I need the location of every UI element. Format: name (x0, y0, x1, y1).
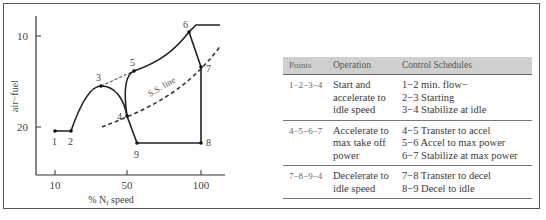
point-label-5: 5 (130, 57, 135, 68)
row-schedules: 7−8 Transter to decel 8−9 Decel to idle (396, 170, 532, 195)
point-label-2: 2 (68, 136, 73, 147)
row-points: 7−8−9−4 (283, 170, 331, 195)
y-tick-20: 20 (17, 121, 29, 133)
row-schedules: 1−2 min. flow− 2−3 Starting 3−4 Stabiliz… (396, 79, 532, 117)
table-row: 1−2−3−4 Start and accelerate to idle spe… (283, 75, 532, 121)
control-schedule-table: Points Operation Control Schedules 1−2−3… (283, 57, 532, 199)
row-points: 4−5−6−7 (283, 125, 331, 163)
table-row: 7−8−9−4 Decelerate to idle speed 7−8 Tra… (283, 166, 532, 199)
row-operation: Start and accelerate to idle speed (331, 79, 396, 117)
x-tick-50: 50 (122, 179, 134, 191)
accel-path (125, 32, 189, 116)
ss-line-label: S.S. line (146, 75, 177, 99)
transfer-dashed-line (101, 71, 134, 86)
row-schedules: 4−5 Transter to accel 5−6 Accel to max p… (396, 125, 532, 163)
point-label-3: 3 (96, 72, 101, 83)
row-points: 1−2−3−4 (283, 79, 331, 117)
point-label-4: 4 (117, 111, 122, 122)
row-operation: Accelerate to max take off power (331, 125, 396, 163)
y-tick-10: 10 (17, 30, 29, 42)
x-tick-100: 100 (193, 179, 210, 191)
table-row: 4−5−6−7 Accelerate to max take off power… (283, 121, 532, 167)
header-operation: Operation (331, 59, 396, 72)
table-header: Points Operation Control Schedules (283, 57, 532, 75)
point-label-1: 1 (52, 136, 57, 147)
operating-path (55, 25, 220, 143)
x-tick-10: 10 (50, 179, 62, 191)
point-label-9: 9 (134, 149, 139, 160)
header-points: Points (283, 59, 331, 72)
y-axis-label: air−fuel (9, 80, 20, 112)
point-label-8: 8 (206, 137, 211, 148)
header-control-schedules: Control Schedules (396, 59, 532, 72)
point-label-6: 6 (183, 19, 188, 30)
row-operation: Decelerate to idle speed (331, 170, 396, 195)
point-label-7: 7 (206, 63, 211, 74)
x-axis-label: % Nf speed (88, 194, 134, 207)
